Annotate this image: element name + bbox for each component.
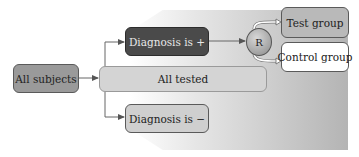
diagnosis-positive-node: Diagnosis is + [125,27,209,56]
diagnosis-negative-node: Diagnosis is − [125,104,209,133]
all-subjects-node: All subjects [13,64,79,93]
test-group-node: Test group [281,7,349,38]
diagnosis-negative-label: Diagnosis is − [129,113,205,125]
test-group-label: Test group [287,17,344,29]
diagnosis-positive-label: Diagnosis is + [129,36,205,48]
control-group-label: Control group [278,51,353,63]
control-group-node: Control group [281,42,349,72]
randomization-node: R [246,28,272,56]
all-tested-label: All tested [158,73,209,85]
all-subjects-label: All subjects [15,73,76,85]
all-tested-node: All tested [99,66,267,92]
randomization-label: R [255,37,263,48]
